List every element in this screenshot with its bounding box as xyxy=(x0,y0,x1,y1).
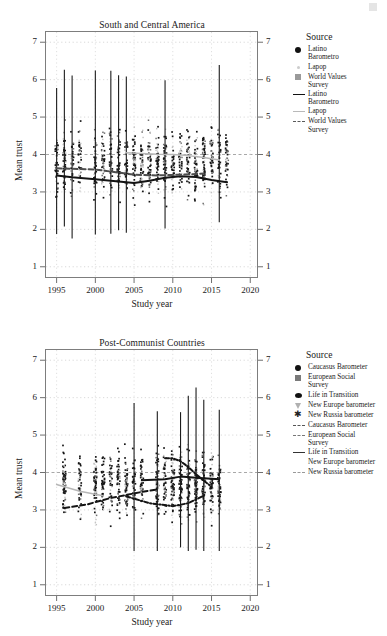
plot-area-1 xyxy=(45,31,258,278)
y-tick-label: 3 xyxy=(24,505,37,514)
legend-item[interactable]: New Russia barometer xyxy=(292,468,384,477)
y-tick-label: 4 xyxy=(24,468,37,477)
filled-circle-icon xyxy=(292,363,306,372)
legend-item[interactable]: Latino Barometro xyxy=(292,90,384,106)
y-tick-label-right: 1 xyxy=(266,580,279,589)
y-tick-label: 2 xyxy=(24,542,37,551)
legend-item-label: Lapop xyxy=(308,63,384,71)
legend-source-1: SourceLatino BarometroLapopWorld Values … xyxy=(292,33,384,135)
dashed-line-icon xyxy=(292,117,306,126)
x-tick-label: 2010 xyxy=(156,603,190,613)
y-tick-label: 5 xyxy=(24,112,37,121)
y-tick-label: 4 xyxy=(24,150,37,159)
filled-circle-icon xyxy=(292,45,306,54)
dash-dot-line-icon xyxy=(292,468,306,477)
legend-item-label: European Social Survey xyxy=(308,431,384,447)
legend-item[interactable]: Life in Transition xyxy=(292,391,384,400)
legend-item-label: Latino Barometro xyxy=(308,90,384,106)
y-tick-label: 7 xyxy=(24,355,37,364)
legend-item[interactable]: World Values Survey xyxy=(292,117,384,133)
solid-line-icon xyxy=(292,90,306,99)
solid-curve-icon xyxy=(292,448,306,457)
y-tick-label-right: 6 xyxy=(266,393,279,402)
y-tick-label-right: 4 xyxy=(266,468,279,477)
x-tick-label: 2005 xyxy=(117,285,151,295)
x-axis-title: Study year xyxy=(45,617,259,627)
filled-ellipse-icon xyxy=(292,391,306,400)
legend-title: Source xyxy=(306,33,384,41)
x-tick-label: 2010 xyxy=(156,285,190,295)
x-tick-label: 2005 xyxy=(117,603,151,613)
dashed-line-icon xyxy=(292,431,306,440)
legend-item-label: Caucasus Barometer xyxy=(308,421,384,429)
y-tick-label-right: 7 xyxy=(266,37,279,46)
legend-item[interactable]: Caucasus Barometer xyxy=(292,363,384,372)
y-tick-label: 3 xyxy=(24,187,37,196)
legend-item-label: Life in Transition xyxy=(308,448,384,456)
x-tick-label: 2000 xyxy=(78,285,112,295)
x-tick-label: 1995 xyxy=(40,285,74,295)
blank-line-icon xyxy=(292,458,306,467)
y-tick-label-right: 5 xyxy=(266,430,279,439)
x-tick-label: 2015 xyxy=(195,603,229,613)
x-tick-label: 2020 xyxy=(233,603,267,613)
legend-item-label: New Russia barometer xyxy=(308,411,384,419)
legend-item[interactable]: Life in Transition xyxy=(292,448,384,457)
y-tick-label: 7 xyxy=(24,37,37,46)
filled-square-icon xyxy=(292,373,306,382)
y-tick-label-right: 5 xyxy=(266,112,279,121)
legend-item[interactable]: Caucasus Barometer xyxy=(292,421,384,430)
page-title-2: Post-Communist Countries xyxy=(45,338,259,348)
asterisk-icon: ✱ xyxy=(292,411,306,420)
y-tick-label: 6 xyxy=(24,393,37,402)
corner-artifact xyxy=(369,3,377,11)
legend-title: Source xyxy=(306,351,384,359)
y-tick-label: 1 xyxy=(24,262,37,271)
legend-item[interactable]: New Europe barometer xyxy=(292,458,384,467)
legend-source-2: SourceCaucasus BarometerEuropean Social … xyxy=(292,351,384,478)
plot-area-2 xyxy=(45,349,258,596)
legend-item[interactable]: Lapop xyxy=(292,107,384,116)
filled-square-icon xyxy=(292,73,306,82)
x-tick-label: 2020 xyxy=(233,285,267,295)
legend-item-label: Life in Transition xyxy=(308,391,384,399)
y-tick-label-right: 2 xyxy=(266,224,279,233)
legend-item-label: Caucasus Barometer xyxy=(308,363,384,371)
legend-item-label: New Russia barometer xyxy=(308,468,384,476)
legend-item[interactable]: ✱New Russia barometer xyxy=(292,411,384,420)
x-tick-label: 2015 xyxy=(195,285,229,295)
legend-item-label: World Values Survey xyxy=(308,117,384,133)
small-light-dot-icon xyxy=(292,63,306,72)
page-title: South and Central America xyxy=(45,20,259,30)
x-tick-label: 2000 xyxy=(78,603,112,613)
legend-item-label: New Europe barometer xyxy=(308,458,384,466)
legend-item-label: European Social Survey xyxy=(308,373,384,389)
legend-item-label: New Europe barometer xyxy=(308,401,384,409)
y-tick-label-right: 1 xyxy=(266,262,279,271)
legend-item-label: Latino Barometro xyxy=(308,45,384,61)
legend-item[interactable]: Latino Barometro xyxy=(292,45,384,61)
y-tick-label-right: 3 xyxy=(266,505,279,514)
y-tick-label-right: 7 xyxy=(266,355,279,364)
legend-item[interactable]: European Social Survey xyxy=(292,431,384,447)
legend-item-label: World Values Survey xyxy=(308,73,384,89)
y-tick-label: 2 xyxy=(24,224,37,233)
y-tick-label: 5 xyxy=(24,430,37,439)
dash-dot-line-icon xyxy=(292,421,306,430)
legend-item[interactable]: World Values Survey xyxy=(292,73,384,89)
legend-item[interactable]: New Europe barometer xyxy=(292,401,384,410)
y-axis-title: Mean trust xyxy=(14,140,24,181)
y-tick-label-right: 3 xyxy=(266,187,279,196)
light-line-icon xyxy=(292,107,306,116)
legend-item[interactable]: Lapop xyxy=(292,63,384,72)
legend-item-label: Lapop xyxy=(308,107,384,115)
x-tick-label: 1995 xyxy=(40,603,74,613)
y-tick-label-right: 4 xyxy=(266,150,279,159)
y-axis-title: Mean trust xyxy=(14,458,24,499)
y-tick-label-right: 2 xyxy=(266,542,279,551)
x-axis-title: Study year xyxy=(45,299,259,309)
y-tick-label-right: 6 xyxy=(266,75,279,84)
y-tick-label: 6 xyxy=(24,75,37,84)
legend-item[interactable]: European Social Survey xyxy=(292,373,384,389)
y-tick-label: 1 xyxy=(24,580,37,589)
